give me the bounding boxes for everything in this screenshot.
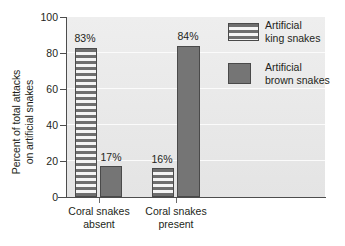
legend-label-king-snakes: Artificial king snakes xyxy=(265,19,320,44)
x-category-label-absent: Coral snakes absent xyxy=(57,205,141,231)
bar-absent-brown-snakes[interactable] xyxy=(100,166,122,197)
legend: Artificial king snakes Artificial brown … xyxy=(228,19,330,103)
y-tick-label-20: 20 xyxy=(30,156,58,166)
legend-label-brown-snakes: Artificial brown snakes xyxy=(265,61,330,86)
x-tick-mark-absent xyxy=(99,198,100,203)
x-category-label-absent-line2: absent xyxy=(57,218,141,231)
bar-absent-king-snakes[interactable] xyxy=(75,48,97,197)
x-category-label-present-line2: present xyxy=(134,218,218,231)
y-tick-label-60: 60 xyxy=(30,84,58,94)
legend-item-brown-snakes[interactable]: Artificial brown snakes xyxy=(228,61,330,86)
bar-present-brown-snakes[interactable] xyxy=(177,46,200,197)
legend-label-king-snakes-line1: Artificial xyxy=(265,19,320,32)
legend-swatch-solid-icon xyxy=(228,63,251,84)
legend-label-king-snakes-line2: king snakes xyxy=(265,32,320,45)
bar-chart: Percent of total attacks on artificial s… xyxy=(0,0,345,246)
y-axis-title-line1: Percent of total attacks xyxy=(10,70,23,174)
x-category-label-present-line1: Coral snakes xyxy=(134,205,218,218)
legend-label-brown-snakes-line1: Artificial xyxy=(265,61,330,74)
bar-value-present-brown-snakes: 84% xyxy=(163,31,213,42)
bar-present-king-snakes[interactable] xyxy=(152,168,174,197)
y-axis-tick-labels: 100 80 60 40 20 0 xyxy=(28,0,58,246)
legend-label-brown-snakes-line2: brown snakes xyxy=(265,74,330,87)
bar-value-absent-king-snakes: 83% xyxy=(60,33,110,44)
y-tick-label-80: 80 xyxy=(30,48,58,58)
y-tick-label-40: 40 xyxy=(30,120,58,130)
x-category-label-absent-line1: Coral snakes xyxy=(57,205,141,218)
bar-value-present-king-snakes: 16% xyxy=(137,154,187,165)
x-tick-mark-present xyxy=(176,198,177,203)
bar-value-absent-brown-snakes: 17% xyxy=(86,152,136,163)
y-tick-label-100: 100 xyxy=(30,12,58,22)
legend-item-king-snakes[interactable]: Artificial king snakes xyxy=(228,19,330,44)
legend-swatch-striped-icon xyxy=(228,23,259,41)
y-tick-label-0: 0 xyxy=(30,192,58,202)
x-category-label-present: Coral snakes present xyxy=(134,205,218,231)
